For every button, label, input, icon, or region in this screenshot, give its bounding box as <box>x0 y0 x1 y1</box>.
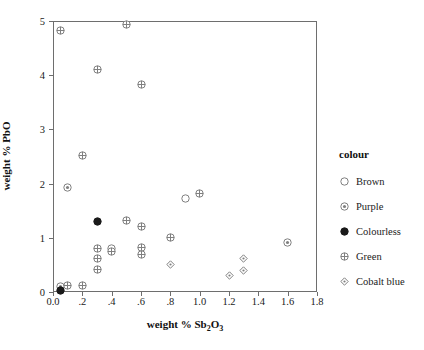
legend-title: colour <box>339 148 424 160</box>
data-point-green <box>122 216 131 225</box>
x-axis-title-mid: O <box>211 318 220 330</box>
legend-item-label: Brown <box>356 176 385 187</box>
legend: colour BrownPurpleColourlessGreenCobalt … <box>339 148 424 294</box>
legend-item-colourless[interactable]: Colourless <box>339 219 424 244</box>
y-tick-label: 0 <box>40 287 45 298</box>
dotted-circle-icon <box>339 201 350 212</box>
data-point-green <box>78 281 87 290</box>
y-tick-mark <box>49 129 53 130</box>
scatter-chart: 0.0.2.4.6.81.01.21.41.61.8 012345 weight… <box>0 0 424 350</box>
data-point-green <box>122 20 131 29</box>
legend-item-label: Purple <box>356 201 383 212</box>
x-tick-label: .6 <box>137 296 145 307</box>
x-tick-label: 0.0 <box>46 296 59 307</box>
x-axis-title: weight % Sb2O3 <box>53 318 317 333</box>
dotted-diamond-icon <box>339 276 350 287</box>
data-point-green <box>56 26 65 35</box>
open-circle-icon <box>339 176 350 187</box>
y-tick-label: 1 <box>40 232 45 243</box>
x-tick-label: 1.8 <box>310 296 323 307</box>
data-point-green <box>195 189 204 198</box>
data-point-green <box>137 250 146 259</box>
y-tick-mark <box>49 238 53 239</box>
data-point-green <box>93 65 102 74</box>
data-point-purple <box>63 183 72 192</box>
y-tick-mark <box>49 21 53 22</box>
data-point-green <box>137 222 146 231</box>
legend-item-cobalt-blue[interactable]: Cobalt blue <box>339 269 424 294</box>
data-point-green <box>78 151 87 160</box>
data-point-green <box>93 265 102 274</box>
legend-item-label: Colourless <box>356 226 401 237</box>
data-point-colourless <box>93 217 102 226</box>
data-point-purple <box>283 238 292 247</box>
x-tick-label: 1.0 <box>193 296 206 307</box>
y-tick-label: 3 <box>40 124 45 135</box>
x-tick-label: .2 <box>78 296 86 307</box>
crossed-circle-icon <box>339 251 350 262</box>
data-point-green <box>93 254 102 263</box>
data-point-cobalt-blue <box>225 271 234 280</box>
legend-item-purple[interactable]: Purple <box>339 194 424 219</box>
data-point-green <box>93 244 102 253</box>
data-point-cobalt-blue <box>166 260 175 269</box>
legend-item-label: Green <box>356 251 382 262</box>
data-point-green <box>166 233 175 242</box>
y-axis-title: weight % PbO <box>0 121 12 190</box>
legend-item-brown[interactable]: Brown <box>339 169 424 194</box>
legend-item-green[interactable]: Green <box>339 244 424 269</box>
y-tick-mark <box>49 292 53 293</box>
x-tick-label: 1.6 <box>281 296 294 307</box>
legend-item-label: Cobalt blue <box>356 276 405 287</box>
x-axis-title-prefix: weight % Sb <box>147 318 207 330</box>
x-tick-label: .8 <box>166 296 174 307</box>
x-tick-label: .4 <box>108 296 116 307</box>
y-tick-mark <box>49 184 53 185</box>
data-point-green <box>107 247 116 256</box>
filled-circle-icon <box>339 226 350 237</box>
data-point-green <box>137 80 146 89</box>
x-tick-label: 1.2 <box>222 296 235 307</box>
data-point-brown <box>181 194 190 203</box>
data-point-cobalt-blue <box>239 266 248 275</box>
y-tick-mark <box>49 75 53 76</box>
legend-entries: BrownPurpleColourlessGreenCobalt blue <box>339 169 424 294</box>
y-tick-label: 5 <box>40 16 45 27</box>
data-point-green <box>63 281 72 290</box>
y-tick-label: 4 <box>40 70 45 81</box>
y-tick-label: 2 <box>40 178 45 189</box>
data-point-cobalt-blue <box>239 254 248 263</box>
x-tick-label: 1.4 <box>252 296 265 307</box>
x-axis-title-sub2: 3 <box>219 324 223 333</box>
